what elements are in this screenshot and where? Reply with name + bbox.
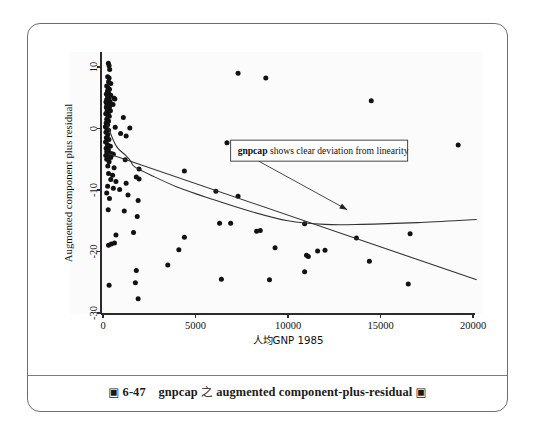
caption-leading-glyph: ▣ [108,385,119,399]
caption-zhi: 之 [201,385,213,399]
figure-caption: ▣ 6-47 gnpcap 之 augmented component-plus… [28,383,507,400]
caption-trailing-glyph: ▣ [416,385,427,399]
figure-page: 05000100001500020000 100-10-20-30 人均GNP … [0,0,533,435]
caption-term: gnpcap [159,385,198,399]
plot-background [70,52,482,314]
caption-rest: augmented component-plus-residual [216,385,412,399]
caption-divider [28,375,507,376]
caption-number: 6-47 [123,385,146,399]
